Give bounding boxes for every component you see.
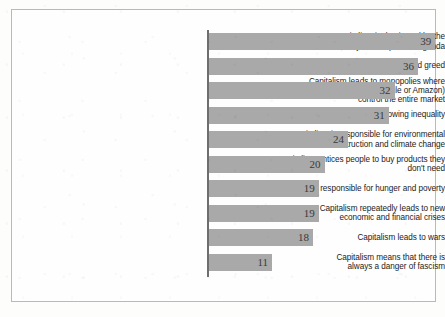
bar-value-label: 19 bbox=[208, 180, 315, 197]
bar-value-label: 11 bbox=[208, 254, 268, 271]
category-label: Capitalism means that there is always a … bbox=[253, 253, 445, 272]
bar-value-label: 36 bbox=[208, 58, 414, 75]
bar-value-label: 31 bbox=[208, 107, 385, 124]
bar-value-label: 32 bbox=[208, 82, 391, 99]
bar-value-label: 19 bbox=[208, 205, 315, 222]
bar-value-label: 20 bbox=[208, 156, 321, 173]
bar-value-label: 24 bbox=[208, 131, 344, 148]
bar-chart: Capitalism is dominated by the rich, the… bbox=[0, 0, 445, 317]
bar-value-label: 39 bbox=[208, 33, 431, 50]
bar-value-label: 18 bbox=[208, 229, 309, 246]
